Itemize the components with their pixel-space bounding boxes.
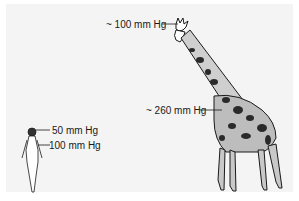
illustration: [0, 0, 299, 201]
human-heart-pressure-label: 100 mm Hg: [49, 140, 101, 151]
giraffe-head-pressure-label: ~ 100 mm Hg: [106, 19, 166, 30]
diagram-canvas: ~ 100 mm Hg ~ 260 mm Hg 50 mm Hg 100 mm …: [0, 0, 299, 201]
human-head-pressure-label: 50 mm Hg: [52, 125, 98, 136]
giraffe-heart-pressure-label: ~ 260 mm Hg: [146, 105, 206, 116]
human-illustration: [22, 128, 42, 192]
